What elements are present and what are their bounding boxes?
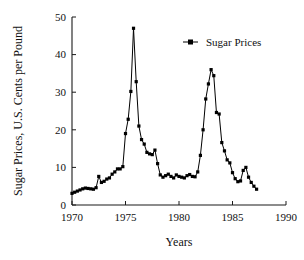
data-point-marker [250,181,253,184]
y-axis-tick-label: 0 [61,199,67,211]
y-axis-tick-label: 40 [55,48,67,60]
data-point-marker [156,162,159,165]
data-point-marker [140,138,143,141]
y-axis-tick-label: 10 [55,161,67,173]
x-axis-tick-label: 1975 [115,211,138,223]
data-point-marker [94,186,97,189]
sugar-prices-line-chart: 01020304050 19701975198019851990 Sugar P… [0,0,304,260]
data-point-marker [201,128,204,131]
data-point-marker [113,170,116,173]
data-point-marker [234,177,237,180]
data-point-marker [231,171,234,174]
data-point-marker [137,124,140,127]
x-axis-tick-label: 1970 [61,211,84,223]
y-axis-tick-label: 50 [55,11,67,23]
data-point-marker [255,188,258,191]
data-point-marker [220,141,223,144]
data-point-marker [132,27,135,30]
data-point-marker [239,179,242,182]
data-point-marker [108,176,111,179]
data-point-marker [121,165,124,168]
data-point-marker [252,185,255,188]
data-point-marker [151,153,154,156]
data-point-marker [129,90,132,93]
data-point-marker [199,154,202,157]
data-point-marker [153,149,156,152]
data-point-marker [207,82,210,85]
data-point-marker [204,97,207,100]
x-axis-tick-label: 1990 [275,211,298,223]
data-point-marker [143,142,146,145]
x-axis-tick-label: 1980 [168,211,191,223]
data-point-marker [242,169,245,172]
data-point-marker [218,112,221,115]
y-axis-tick-label: 30 [55,86,67,98]
y-axis-title: Sugar Prices, U.S. Cents per Pound [11,26,25,196]
data-point-marker [212,74,215,77]
x-axis-tick-label: 1985 [222,211,245,223]
data-point-marker [244,166,247,169]
data-point-marker [210,68,213,71]
data-point-marker [226,158,229,161]
data-point-marker [97,175,100,178]
legend-label-sugar-prices: Sugar Prices [206,36,261,48]
legend-square-marker-icon [188,40,193,45]
y-axis-tick-label: 20 [55,124,67,136]
data-point-marker [223,149,226,152]
data-point-marker [196,170,199,173]
data-point-marker [135,80,138,83]
data-point-marker [247,176,250,179]
data-point-marker [127,118,130,121]
chart-figure: 01020304050 19701975198019851990 Sugar P… [0,0,304,260]
data-point-marker [193,175,196,178]
data-point-marker [172,176,175,179]
x-axis-title: Years [166,235,193,249]
data-point-marker [124,132,127,135]
data-point-marker [228,161,231,164]
